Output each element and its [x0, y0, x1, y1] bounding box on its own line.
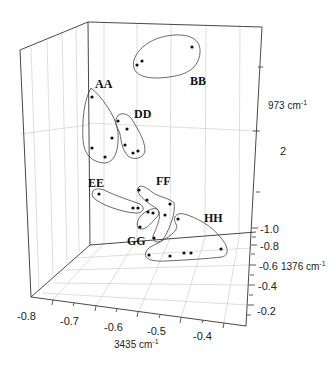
back-wall-grid [88, 22, 258, 243]
point-GG [146, 210, 149, 213]
point-DD [116, 119, 119, 122]
z-axis-title: 973 cm-1 [268, 99, 307, 111]
point-DD [131, 151, 134, 154]
group-label-GG: GG [127, 234, 146, 248]
point-AA [110, 136, 113, 139]
x-axis-tick-labels: -0.8 -0.7 -0.6 -0.5 -0.4 [17, 310, 212, 342]
floor-grid [42, 232, 252, 322]
point-DD [123, 143, 126, 146]
y-tick-label: -0.8 [260, 240, 279, 252]
point-HH [168, 254, 171, 257]
y-tick-label: -0.2 [257, 305, 276, 317]
z-tick-label: 2 [280, 145, 286, 157]
group-label-DD: DD [134, 107, 152, 121]
point-DD [136, 149, 139, 152]
point-FF [145, 198, 148, 201]
point-GG [151, 211, 154, 214]
x-tick-label: -0.7 [60, 315, 79, 327]
axes-frame [20, 22, 262, 326]
point-EE [97, 192, 100, 195]
point-HH [189, 251, 192, 254]
3d-scatter-chart: AA BB DD EE FF GG HH -0.8 -0.7 -0.6 -0.5… [0, 0, 336, 365]
group-label-FF: FF [156, 174, 171, 188]
right-axis-ticks [247, 67, 263, 315]
hull-AA [83, 88, 118, 163]
y-axis-title: 1376 cm-1 [281, 260, 326, 272]
point-HH [182, 251, 185, 254]
hull-EE [92, 189, 143, 213]
y-tick-label: -0.4 [258, 280, 277, 292]
point-FF [137, 188, 140, 191]
point-FF [168, 202, 171, 205]
point-GG [152, 236, 155, 239]
point-FF [163, 213, 166, 216]
point-BB [135, 63, 138, 66]
point-HH [147, 253, 150, 256]
point-HH [176, 217, 179, 220]
x-tick-label: -0.4 [193, 330, 212, 342]
x-tick-label: -0.5 [147, 325, 166, 337]
group-label-EE: EE [88, 176, 104, 190]
point-EE [131, 206, 134, 209]
x-tick-label: -0.6 [104, 321, 123, 333]
point-HH [219, 247, 222, 250]
group-labels: AA BB DD EE FF GG HH [88, 74, 223, 248]
group-label-BB: BB [190, 74, 206, 88]
x-tick-label: -0.8 [17, 310, 36, 322]
y-axis-tick-labels: -1.0 -0.8 -0.6 -0.4 -0.2 [257, 223, 279, 317]
point-DD [125, 127, 128, 130]
point-AA [90, 95, 93, 98]
point-EE [136, 206, 139, 209]
x-axis-title: 3435 cm-1 [114, 338, 159, 350]
hull-BB [133, 35, 200, 78]
point-AA [103, 155, 106, 158]
y-tick-label: -1.0 [260, 223, 279, 235]
point-BB [190, 45, 193, 48]
y-tick-label: -0.6 [259, 260, 278, 272]
group-label-HH: HH [204, 211, 223, 225]
point-BB [140, 59, 143, 62]
left-wall-grid [20, 27, 88, 290]
group-label-AA: AA [95, 77, 113, 91]
point-GG [138, 225, 141, 228]
point-AA [90, 146, 93, 149]
